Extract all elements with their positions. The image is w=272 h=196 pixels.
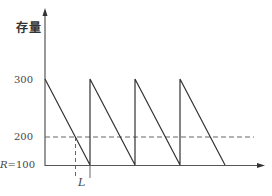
r-symbol: R xyxy=(0,159,8,170)
y-axis-arrow-icon xyxy=(43,8,48,16)
lead-time-label: L xyxy=(78,176,85,189)
y-axis-title: 存量 xyxy=(16,18,42,35)
x-axis-arrow-icon xyxy=(257,163,265,168)
inventory-series xyxy=(45,79,225,165)
r-value: =100 xyxy=(8,159,35,170)
y-tick-r100: R=100 xyxy=(0,159,35,170)
y-tick-300: 300 xyxy=(14,74,33,85)
y-tick-200: 200 xyxy=(14,131,33,142)
